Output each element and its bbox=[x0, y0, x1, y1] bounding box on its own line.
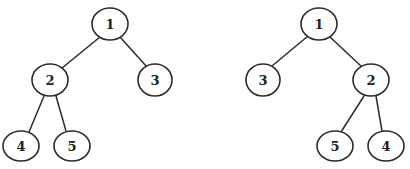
tree-node-3: 3 bbox=[246, 64, 280, 96]
binary-trees-diagram: 1 2 3 4 5 1 3 bbox=[0, 0, 410, 169]
svg-text:5: 5 bbox=[330, 139, 339, 154]
edge-1-2 bbox=[62, 37, 100, 68]
svg-text:2: 2 bbox=[45, 73, 54, 88]
tree-node-2: 2 bbox=[353, 64, 389, 96]
tree-node-2: 2 bbox=[32, 64, 68, 96]
svg-text:2: 2 bbox=[366, 73, 375, 88]
svg-text:4: 4 bbox=[16, 139, 25, 154]
tree-node-1: 1 bbox=[92, 8, 128, 40]
tree-node-1: 1 bbox=[301, 8, 337, 40]
tree-node-5: 5 bbox=[54, 131, 90, 161]
tree-node-4: 4 bbox=[368, 131, 404, 161]
tree-node-3: 3 bbox=[138, 64, 172, 96]
svg-text:4: 4 bbox=[381, 139, 390, 154]
svg-text:3: 3 bbox=[258, 73, 267, 88]
edge-2-4 bbox=[29, 96, 44, 132]
edge-2-4 bbox=[376, 96, 382, 131]
svg-text:1: 1 bbox=[105, 17, 114, 32]
edge-1-3 bbox=[120, 37, 147, 67]
edge-2-5 bbox=[56, 96, 66, 131]
right-tree: 1 3 2 5 4 bbox=[246, 8, 404, 161]
edge-1-3 bbox=[272, 36, 308, 66]
svg-text:1: 1 bbox=[314, 17, 323, 32]
edge-2-5 bbox=[341, 96, 364, 132]
left-tree: 1 2 3 4 5 bbox=[3, 8, 172, 161]
tree-node-4: 4 bbox=[3, 131, 39, 161]
tree-node-5: 5 bbox=[317, 131, 353, 161]
edge-1-2 bbox=[330, 37, 362, 67]
svg-text:3: 3 bbox=[150, 73, 159, 88]
svg-text:5: 5 bbox=[67, 139, 76, 154]
